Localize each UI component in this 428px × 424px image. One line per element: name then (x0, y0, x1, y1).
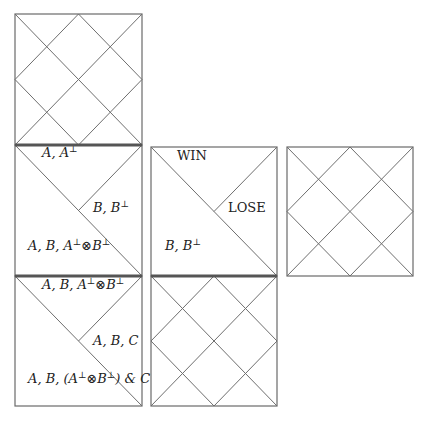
label-top: A, B, A⊥⊗B⊥ (41, 276, 124, 292)
grid-diagonals (287, 147, 413, 276)
board-bottom-left: A, B, A⊥⊗B⊥ A, B, C A, B, (A⊥⊗B⊥) & C (15, 276, 150, 406)
label-right: B, B⊥ (92, 199, 129, 215)
label-left: A, B, (A⊥⊗B⊥) & C (27, 370, 150, 386)
label-right: A, B, C (92, 333, 138, 348)
label-right: LOSE (228, 200, 266, 215)
diagram-canvas: A, A⊥ B, B⊥ A, B, A⊥⊗B⊥ A, B, A⊥⊗B⊥ A, B… (0, 0, 428, 424)
grid-diagonals (15, 14, 142, 145)
board-top-left (15, 14, 142, 145)
board-mid-center: WIN LOSE B, B⊥ (151, 147, 277, 276)
board-mid-left: A, A⊥ B, B⊥ A, B, A⊥⊗B⊥ (15, 144, 142, 276)
grid-diagonals (151, 276, 277, 406)
label-left: B, B⊥ (164, 237, 201, 253)
board-mid-right (287, 147, 413, 276)
board-bottom-center (151, 276, 277, 406)
label-top: WIN (177, 148, 207, 163)
label-left: A, B, A⊥⊗B⊥ (27, 237, 110, 253)
